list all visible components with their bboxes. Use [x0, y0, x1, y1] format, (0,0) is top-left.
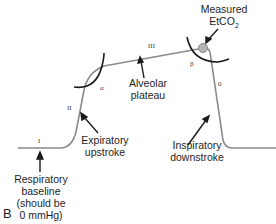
expiratory-upstroke-label: Expiratory upstroke — [70, 134, 140, 158]
expiratory-arrow — [84, 117, 98, 133]
alveolar-arrow — [141, 61, 144, 78]
measured-etco2-label: Measured EtCO2 — [192, 3, 256, 32]
phase-ii-label: II — [67, 104, 72, 112]
phase-i-label: I — [38, 137, 40, 145]
alveolar-plateau-label: Alveolar plateau — [118, 77, 178, 101]
alpha-label: α — [100, 84, 104, 92]
etco2-marker — [199, 44, 208, 53]
respiratory-baseline-label: Respiratory baseline (should be 0 mmHg) — [6, 173, 76, 221]
beta-label: β — [190, 60, 194, 68]
phase-0-label: 0 — [218, 80, 222, 88]
phase-iii-label: III — [148, 42, 155, 50]
inspiratory-downstroke-label: Inspiratory downstroke — [162, 139, 232, 163]
panel-label: B — [3, 206, 12, 221]
alpha-angle-arc — [74, 53, 104, 87]
